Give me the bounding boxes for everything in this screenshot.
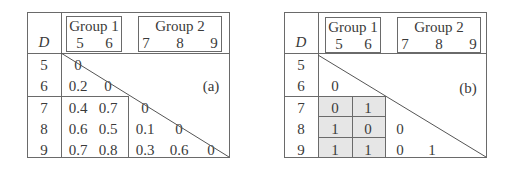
distance-matrix-b: Group 1 5 6 Group 2 7 8 9 D 5 6 7 8 9 0 … [284, 12, 487, 158]
diagonal-line [285, 13, 486, 157]
distance-matrix-a: Group 1 5 6 Group 2 7 8 9 D 5 6 7 8 9 0 … [27, 12, 230, 158]
diagonal-line [28, 13, 229, 157]
